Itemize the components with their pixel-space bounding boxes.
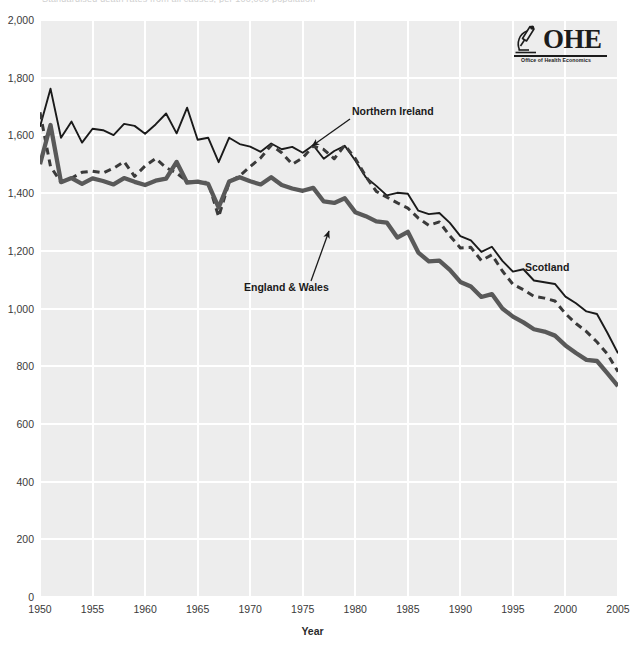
x-tick-label-1950: 1950 xyxy=(28,603,51,615)
x-tick-label-1955: 1955 xyxy=(81,603,104,615)
y-tick-label-1400: 1,400 xyxy=(0,187,34,199)
annotation-scotland: Scotland xyxy=(525,261,569,273)
x-tick-label-1990: 1990 xyxy=(449,603,472,615)
x-tick-label-1980: 1980 xyxy=(344,603,367,615)
series-line-scotland xyxy=(40,89,618,354)
ohe-logo-mark: OHE xyxy=(543,26,602,53)
x-tick-label-2000: 2000 xyxy=(554,603,577,615)
x-tick-label-1970: 1970 xyxy=(238,603,261,615)
chart-title: Standardised death rates from all causes… xyxy=(42,0,315,3)
x-tick-label-1960: 1960 xyxy=(133,603,156,615)
y-tick-label-1200: 1,200 xyxy=(0,245,34,257)
microscope-icon xyxy=(513,24,545,55)
y-tick-label-200: 200 xyxy=(0,533,34,545)
plot-area xyxy=(40,20,618,597)
x-tick-label-2005: 2005 xyxy=(606,603,629,615)
x-tick-label-1995: 1995 xyxy=(501,603,524,615)
y-tick-label-1000: 1,000 xyxy=(0,303,34,315)
y-tick-label-1800: 1,800 xyxy=(0,72,34,84)
annotation-england-wales: England & Wales xyxy=(244,281,329,293)
y-tick-label-400: 400 xyxy=(0,476,34,488)
series-lines xyxy=(40,20,618,597)
y-tick-label-800: 800 xyxy=(0,360,34,372)
annotation-northern-ireland: Northern Ireland xyxy=(352,105,434,117)
x-tick-label-1985: 1985 xyxy=(396,603,419,615)
y-tick-label-0: 0 xyxy=(0,591,34,603)
y-tick-label-600: 600 xyxy=(0,418,34,430)
ohe-logo: OHE Office of Health Economics xyxy=(513,24,607,68)
ohe-logo-subtitle: Office of Health Economics xyxy=(521,57,591,63)
x-tick-label-1965: 1965 xyxy=(186,603,209,615)
y-tick-label-1600: 1,600 xyxy=(0,129,34,141)
y-tick-label-2000: 2,000 xyxy=(0,14,34,26)
series-line-northern-ireland xyxy=(40,112,618,371)
x-tick-label-1975: 1975 xyxy=(291,603,314,615)
x-axis-title: Year xyxy=(0,625,625,637)
